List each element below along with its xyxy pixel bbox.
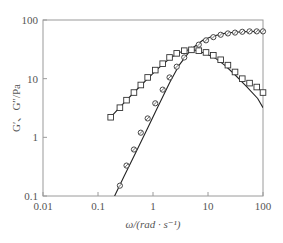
g-double-prime-marker bbox=[138, 82, 144, 88]
g-double-prime-marker bbox=[181, 48, 187, 54]
x-tick-label: 10 bbox=[203, 200, 215, 212]
g-double-prime-marker bbox=[167, 55, 173, 61]
g-double-prime-marker bbox=[189, 47, 195, 53]
x-axis-ticks: 0.010.1110100 bbox=[33, 192, 271, 212]
g-double-prime-marker bbox=[218, 57, 224, 63]
g-double-prime-marker bbox=[196, 48, 202, 54]
g-double-prime-marker bbox=[174, 51, 180, 57]
fit-curve bbox=[111, 50, 263, 117]
plot-frame bbox=[43, 20, 263, 196]
g-double-prime-marker bbox=[260, 90, 266, 96]
g-double-prime-marker bbox=[145, 75, 151, 81]
g-double-prime-marker bbox=[247, 80, 253, 86]
y-tick-label: 100 bbox=[22, 14, 39, 26]
g-double-prime-marker bbox=[124, 97, 130, 103]
data-markers bbox=[108, 29, 266, 188]
y-tick-label: 10 bbox=[27, 73, 39, 85]
g-double-prime-marker bbox=[108, 114, 114, 120]
g-double-prime-marker bbox=[131, 90, 137, 96]
g-double-prime-marker bbox=[160, 61, 166, 67]
y-tick-label: 1 bbox=[33, 131, 39, 143]
g-double-prime-marker bbox=[225, 62, 231, 68]
x-tick-label: 100 bbox=[255, 200, 272, 212]
g-double-prime-marker bbox=[239, 76, 245, 82]
y-axis-label: G′、G″/Pa bbox=[10, 84, 22, 132]
y-tick-label: 0.1 bbox=[24, 190, 38, 202]
g-double-prime-marker bbox=[203, 50, 209, 56]
x-tick-label: 0.1 bbox=[91, 200, 105, 212]
g-double-prime-marker bbox=[211, 53, 217, 59]
fit-curve bbox=[115, 31, 263, 196]
x-axis-label: ω/(rad · s⁻¹) bbox=[125, 218, 180, 231]
x-tick-label: 1 bbox=[150, 200, 156, 212]
rheology-chart: 0.010.1110100 0.1110100 ω/(rad · s⁻¹) G′… bbox=[0, 0, 283, 243]
g-double-prime-marker bbox=[152, 67, 158, 73]
g-double-prime-marker bbox=[117, 105, 123, 111]
g-double-prime-marker bbox=[232, 69, 238, 75]
g-double-prime-marker bbox=[254, 84, 260, 90]
